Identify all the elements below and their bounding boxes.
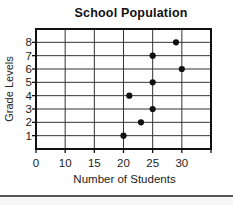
y-tick-label-8: 8	[16, 36, 32, 48]
data-point-grade-2	[138, 119, 144, 125]
y-tick-label-6: 6	[16, 63, 32, 75]
scatter-plot-canvas	[30, 27, 215, 156]
data-point-grade-1	[120, 133, 126, 139]
next-section-background	[0, 197, 233, 205]
y-axis-title: Grade Levels	[3, 49, 17, 129]
data-point-grade-3	[150, 106, 156, 112]
x-tick-label-15: 15	[81, 157, 107, 169]
x-tick-label-25: 25	[140, 157, 166, 169]
data-point-grade-4	[126, 93, 132, 99]
x-tick-label-10: 10	[52, 157, 78, 169]
x-tick-label-0: 0	[23, 157, 49, 169]
y-tick-label-1: 1	[16, 130, 32, 142]
data-point-grade-6	[179, 66, 185, 72]
x-tick-label-30: 30	[169, 157, 195, 169]
y-tick-label-2: 2	[16, 116, 32, 128]
data-point-grade-8	[173, 39, 179, 45]
data-point-grade-7	[150, 53, 156, 59]
x-tick-label-20: 20	[111, 157, 137, 169]
y-tick-label-4: 4	[16, 90, 32, 102]
y-tick-label-5: 5	[16, 76, 32, 88]
chart-title: School Population	[29, 6, 233, 20]
data-point-grade-5	[150, 79, 156, 85]
y-tick-label-7: 7	[16, 50, 32, 62]
worksheet-panel: School Population Grade Levels 12345678 …	[0, 0, 233, 205]
y-tick-label-3: 3	[16, 103, 32, 115]
x-axis-title: Number of Students	[36, 173, 213, 185]
